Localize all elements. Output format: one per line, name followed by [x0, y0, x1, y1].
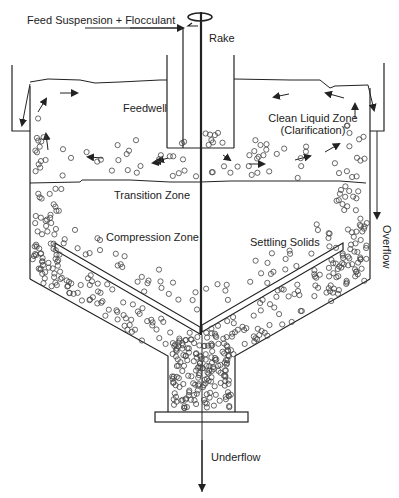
clean-liquid-line2: (Clarification) — [258, 124, 368, 136]
overflow-label: Overflow — [381, 225, 393, 268]
rake-arm-right — [202, 243, 343, 332]
feed-label: Feed Suspension + Flocculant — [27, 14, 175, 26]
thickener-diagram — [0, 0, 399, 498]
underflow-label: Underflow — [211, 451, 261, 463]
overflow-arrow-right-top — [368, 85, 374, 110]
clean-liquid-line1: Clean Liquid Zone — [258, 112, 368, 124]
rake-label: Rake — [209, 32, 235, 44]
settling-label: Settling Solids — [250, 236, 320, 248]
transition-line — [30, 180, 366, 183]
rotation-arrow-icon — [188, 23, 198, 26]
clean-liquid-label: Clean Liquid Zone (Clarification) — [258, 112, 368, 136]
feedwell-label: Feedwell — [123, 102, 167, 114]
overflow-arrow-left-top — [22, 84, 30, 125]
compression-label: Compression Zone — [106, 231, 199, 243]
transition-label: Transition Zone — [114, 189, 190, 201]
liquid-surface-right — [234, 79, 368, 88]
feed-pipe — [130, 28, 183, 148]
right-launder — [370, 63, 384, 131]
liquid-surface-left — [30, 79, 167, 83]
